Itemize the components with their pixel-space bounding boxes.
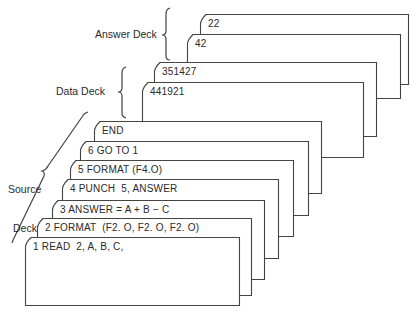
data-deck-brace xyxy=(118,67,126,118)
data-deck-label: Data Deck xyxy=(56,85,105,98)
card-text: 5 FORMAT (F4.O) xyxy=(78,164,162,175)
card-text: 22 xyxy=(208,18,220,29)
card-text: END xyxy=(102,125,124,136)
card-text: 6 GO TO 1 xyxy=(88,145,138,156)
card-text: 3 ANSWER = A + B − C xyxy=(60,204,169,215)
punched-card-diagram: Answer Deck Data Deck Source Deck 224235… xyxy=(0,0,416,315)
answer-deck-label: Answer Deck xyxy=(95,28,157,41)
card-text: 42 xyxy=(195,38,207,49)
punched-card-source: 1 READ 2, A, B, C, xyxy=(25,237,240,306)
source-deck-label-line1: Source xyxy=(8,183,41,196)
card-text: 441921 xyxy=(150,86,185,97)
card-text: 351427 xyxy=(162,66,197,77)
card-text: 1 READ 2, A, B, C, xyxy=(33,241,124,252)
answer-deck-brace xyxy=(162,8,170,60)
card-text: 4 PUNCH 5, ANSWER xyxy=(70,183,178,194)
card-text: 2 FORMAT (F2. O, F2. O, F2. O) xyxy=(45,222,199,233)
